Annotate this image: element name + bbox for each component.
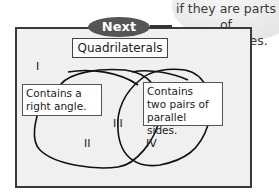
set-label-parallel-sides-line-2: two pairs of (147, 98, 219, 111)
set-label-right-angle-line-2: right angle. (26, 100, 98, 113)
set-label-right-angle: Contains a right angle. (22, 84, 102, 116)
set-label-parallel-sides-line-3: parallel sides. (147, 111, 219, 137)
diagram-title: Quadrilaterals (72, 38, 168, 58)
region-III: III (113, 117, 123, 130)
next-tab-connector (150, 25, 172, 28)
set-label-parallel-sides-line-1: Contains (147, 85, 219, 98)
set-label-parallel-sides: Contains two pairs of parallel sides. (143, 82, 223, 126)
region-I: I (36, 60, 39, 73)
region-IV: IV (146, 137, 157, 150)
next-tab[interactable]: Next (88, 17, 150, 37)
set-label-right-angle-line-1: Contains a (26, 87, 98, 100)
region-II: II (84, 137, 91, 150)
